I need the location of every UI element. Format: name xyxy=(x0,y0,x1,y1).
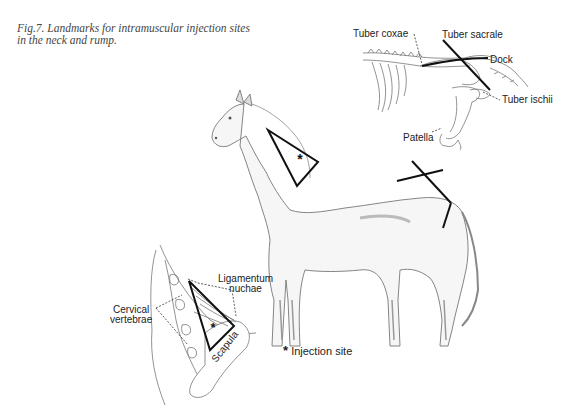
injection-star-icon: * xyxy=(297,151,303,167)
pelvis-leader-lines xyxy=(414,34,500,132)
neck-injection-triangle xyxy=(268,130,318,186)
horse-illustration xyxy=(212,90,478,346)
label-patella: Patella xyxy=(403,133,434,143)
label-dock: Dock xyxy=(490,55,513,65)
label-tuber-ischii: Tuber ischii xyxy=(502,95,553,105)
label-tuber-sacrale: Tuber sacrale xyxy=(442,30,503,40)
legend-star-icon: * xyxy=(283,343,288,358)
label-tuber-coxae: Tuber coxae xyxy=(353,29,408,39)
pelvis-landmark-lines xyxy=(422,40,490,90)
label-ligamentum-nuchae: Ligamentum nuchae xyxy=(218,274,273,294)
label-cervical-vertebrae: Cervical vertebrae xyxy=(110,305,152,325)
legend-injection-site: * Injection site xyxy=(283,346,352,356)
legend-text: Injection site xyxy=(291,345,352,357)
